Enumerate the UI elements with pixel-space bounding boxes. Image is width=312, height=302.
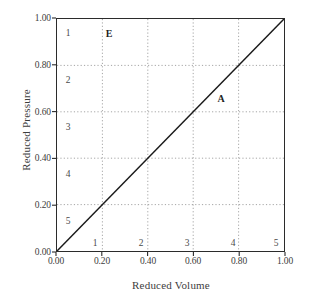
row-number-5: 5 — [61, 216, 75, 226]
y-tick-label-4: 0.80 — [17, 60, 51, 70]
annotation-label-E: E — [102, 28, 116, 39]
y-tick-label-2: 0.40 — [17, 153, 51, 163]
row-number-4: 4 — [61, 169, 75, 179]
column-number-5: 5 — [269, 238, 283, 248]
x-axis-title: Reduced Volume — [56, 279, 286, 291]
chart-figure: Reduced Pressure 1.00 0.80 0.60 0.40 0.2… — [0, 0, 312, 302]
column-number-3: 3 — [180, 238, 194, 248]
x-tick-label-4: 0.80 — [219, 256, 259, 266]
row-number-3: 3 — [61, 122, 75, 132]
series-line-A — [57, 19, 284, 251]
plot-area: 1 2 3 4 5 1 2 3 4 5 E A — [56, 18, 285, 252]
plot-canvas — [57, 19, 284, 251]
annotation-label-A: A — [214, 93, 228, 104]
x-tick-label-0: 0.00 — [36, 256, 76, 266]
x-tick-label-5: 1.00 — [265, 256, 305, 266]
x-tick-label-2: 0.40 — [128, 256, 168, 266]
y-tick-label-5: 1.00 — [17, 13, 51, 23]
y-axis-title: Reduced Pressure — [20, 45, 32, 215]
y-tick-label-1: 0.20 — [17, 200, 51, 210]
row-number-2: 2 — [61, 75, 75, 85]
x-tick-label-1: 0.20 — [82, 256, 122, 266]
column-number-1: 1 — [88, 238, 102, 248]
y-tick-label-3: 0.60 — [17, 107, 51, 117]
column-number-2: 2 — [134, 238, 148, 248]
x-tick-label-3: 0.60 — [173, 256, 213, 266]
row-number-1: 1 — [61, 28, 75, 38]
column-number-4: 4 — [226, 238, 240, 248]
